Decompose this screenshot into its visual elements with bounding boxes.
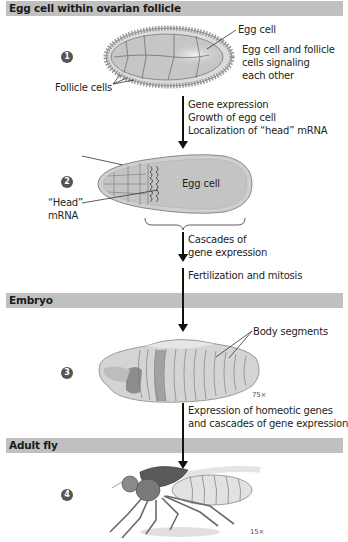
step-badge-4: 4 (61, 489, 73, 501)
transition-4-line-1: Expression of homeotic genes (188, 405, 333, 418)
transition-4-line-2: and cascades of gene expression (188, 418, 348, 431)
adult-fly-illustration (100, 462, 270, 542)
magnification-embryo: 75× (252, 389, 266, 402)
label-body-segments: Body segments (253, 326, 328, 339)
arrow-shaft-4 (182, 403, 184, 463)
magnification-fly: 15× (250, 526, 264, 539)
